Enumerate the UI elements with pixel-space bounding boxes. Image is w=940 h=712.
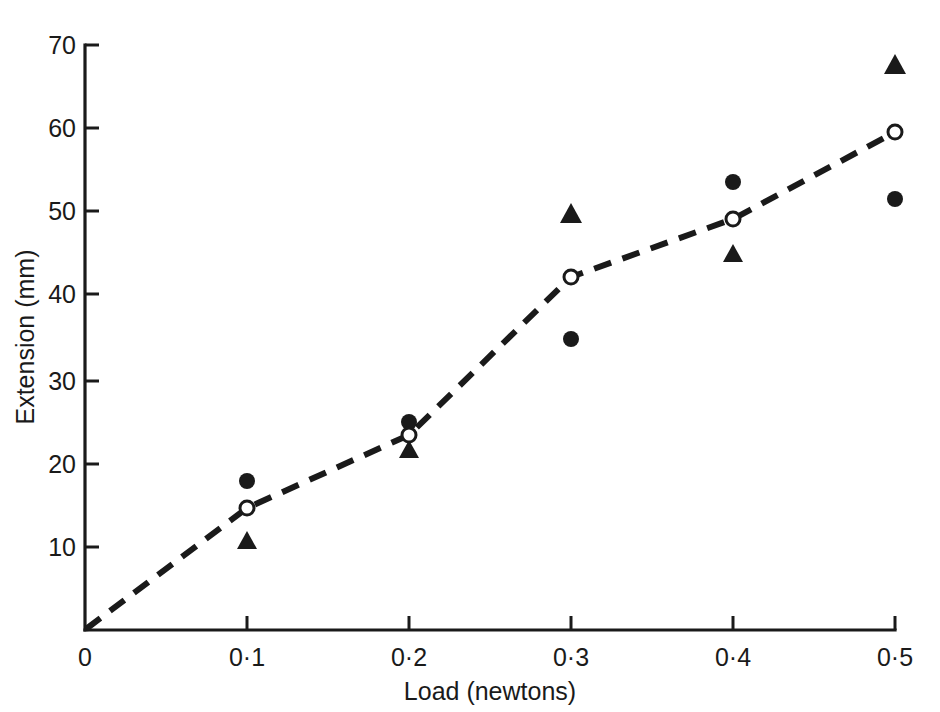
y-tick-label-70: 70	[48, 31, 76, 59]
x-axis-title: Load (newtons)	[404, 677, 576, 705]
y-axis-title: Extension (mm)	[11, 249, 39, 424]
x-axis-tick-labels: 0 0·1 0·2 0·3 0·4 0·5	[78, 643, 913, 671]
y-tick-label-50: 50	[48, 197, 76, 225]
y-tick-label-40: 40	[48, 280, 76, 308]
x-tick-label-0-4: 0·4	[715, 643, 751, 671]
scatter-plot: 70 60 50 40 30 20 10 0 0·1 0·2 0·3 0·4 0…	[0, 0, 940, 712]
data-point-filled-circle	[563, 331, 579, 347]
y-tick-label-20: 20	[48, 450, 76, 478]
trend-line-dashed	[86, 132, 895, 629]
chart-figure: 70 60 50 40 30 20 10 0 0·1 0·2 0·3 0·4 0…	[0, 0, 940, 712]
data-point-open-circle	[888, 125, 902, 139]
x-axis-ticks	[247, 616, 895, 630]
series-filled-triangle	[237, 54, 906, 549]
x-tick-label-0-5: 0·5	[877, 643, 913, 671]
data-point-filled-triangle	[884, 54, 906, 74]
data-point-open-circle	[564, 270, 578, 284]
y-axis-ticks	[85, 45, 99, 547]
data-point-open-circle	[240, 501, 254, 515]
x-tick-label-0-2: 0·2	[391, 643, 427, 671]
data-point-filled-circle	[887, 191, 903, 207]
x-tick-label-0-3: 0·3	[553, 643, 589, 671]
data-point-open-circle	[726, 212, 740, 226]
data-point-filled-triangle	[237, 531, 257, 549]
data-point-filled-triangle	[723, 244, 743, 262]
data-point-filled-triangle	[560, 203, 582, 223]
data-point-open-circle	[402, 428, 416, 442]
x-tick-label-0: 0	[78, 643, 92, 671]
data-point-filled-circle	[239, 473, 255, 489]
y-tick-label-60: 60	[48, 114, 76, 142]
data-point-filled-circle	[725, 174, 741, 190]
y-tick-label-30: 30	[48, 367, 76, 395]
y-axis-tick-labels: 70 60 50 40 30 20 10	[48, 31, 76, 561]
x-tick-label-0-1: 0·1	[229, 643, 265, 671]
y-tick-label-10: 10	[48, 533, 76, 561]
